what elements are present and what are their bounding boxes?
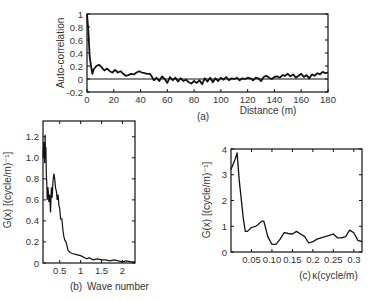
chart-c-frame (231, 149, 362, 252)
x-tick-label: 0.10 (263, 254, 282, 265)
y-tick-label: 0.6 (70, 35, 83, 46)
chart-c-xlabel: κ(cycle/m) (312, 270, 358, 281)
x-tick-label: 80 (189, 94, 200, 105)
x-tick-label: 20 (108, 94, 119, 105)
chart-b-xlabel: Wave number (87, 281, 150, 292)
chart-c-panel-label: (c) (299, 270, 311, 281)
y-tick-label: 1.2 (26, 131, 39, 142)
y-tick-label: 0 (222, 247, 227, 258)
chart-b-panel-label: (b) (70, 281, 82, 292)
x-tick-label: 0.05 (242, 254, 261, 265)
y-tick-label: -0.2 (67, 87, 83, 98)
y-tick-label: 3 (222, 169, 227, 180)
chart-c-ticks: 0.050.100.150.20.250.301234 (222, 144, 362, 266)
x-tick-label: 120 (240, 94, 256, 105)
chart-c-ylabel: G(x) [(cycle/m)⁻¹] (201, 161, 212, 238)
chart-a-series (87, 14, 328, 84)
y-tick-label: 4 (222, 144, 227, 155)
y-tick-label: 0.2 (70, 61, 83, 72)
chart-c-spectrum-kappa: 0.050.100.150.20.250.301234 G(x) [(cycle… (201, 144, 362, 282)
y-tick-label: 1.0 (26, 152, 39, 163)
x-tick-label: 2 (120, 265, 125, 276)
chart-b-ticks: 0.511.5200.20.40.60.81.01.2 (26, 121, 135, 276)
x-tick-label: 40 (135, 94, 146, 105)
x-tick-label: 0.15 (283, 254, 302, 265)
y-tick-label: 2 (222, 195, 227, 206)
chart-a-ylabel: Auto-correlation (55, 18, 66, 89)
x-tick-label: 0.2 (306, 254, 319, 265)
chart-a-ticks: 020406080100120140160180-0.200.20.40.60.… (67, 9, 336, 106)
chart-a-xlabel: Distance (m) (240, 105, 297, 116)
chart-b-spectrum-wavenumber: 0.511.5200.20.40.60.81.01.2 G(x) [(cycle… (2, 121, 150, 292)
x-tick-label: 1.5 (95, 265, 108, 276)
x-tick-label: 0.25 (324, 254, 343, 265)
x-tick-label: 0.5 (53, 265, 66, 276)
x-tick-label: 60 (162, 94, 173, 105)
y-tick-label: 1 (78, 9, 83, 20)
chart-a-panel-label: (a) (197, 111, 209, 122)
chart-b-series (43, 135, 135, 262)
y-tick-label: 0 (78, 74, 83, 85)
y-tick-label: 0.2 (26, 236, 39, 247)
x-tick-label: 100 (213, 94, 229, 105)
x-tick-label: 0.3 (347, 254, 360, 265)
chart-b-ylabel: G(x) [(cycle/m)⁻¹] (2, 151, 13, 228)
y-tick-label: 1 (222, 221, 227, 232)
x-tick-label: 180 (320, 94, 336, 105)
x-tick-label: 160 (293, 94, 309, 105)
y-tick-label: 0.4 (70, 48, 83, 59)
y-tick-label: 0.4 (26, 215, 39, 226)
x-tick-label: 1 (78, 265, 83, 276)
chart-a-autocorrelation: 020406080100120140160180-0.200.20.40.60.… (55, 9, 336, 123)
figure-canvas: 020406080100120140160180-0.200.20.40.60.… (0, 0, 371, 301)
y-tick-label: 0.6 (26, 194, 39, 205)
y-tick-label: 0 (34, 258, 39, 269)
y-tick-label: 0.8 (70, 22, 83, 33)
y-tick-label: 0.8 (26, 173, 39, 184)
x-tick-label: 0 (84, 94, 89, 105)
x-tick-label: 140 (267, 94, 283, 105)
chart-c-series (231, 153, 362, 244)
